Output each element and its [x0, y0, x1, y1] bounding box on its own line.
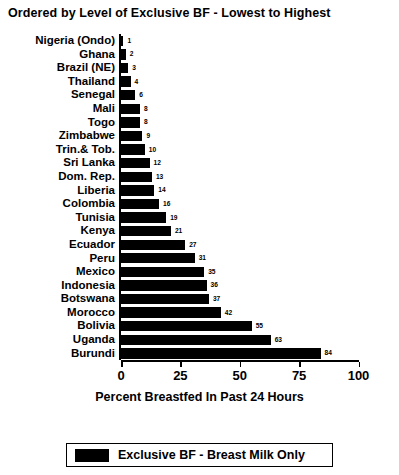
bar-value-label: 3 [132, 65, 136, 72]
bar: 36 [121, 280, 207, 290]
bar: 27 [121, 240, 185, 250]
category-label: Mexico [0, 265, 118, 279]
bar: 6 [121, 90, 135, 100]
category-label: Zimbabwe [0, 129, 118, 143]
bar-value-label: 8 [144, 105, 148, 112]
bar-fill [121, 172, 152, 182]
category-label: Nigeria (Ondo) [0, 34, 118, 48]
bar-value-label: 1 [127, 37, 131, 44]
category-label: Kenya [0, 224, 118, 238]
bar-value-label: 37 [213, 296, 220, 303]
bar: 9 [121, 131, 142, 141]
bar-row: Colombia16 [0, 197, 399, 211]
bar-rows: Nigeria (Ondo)1Ghana2Brazil (NE)3Thailan… [0, 34, 399, 360]
x-tick-label: 100 [348, 368, 370, 383]
category-label: Indonesia [0, 279, 118, 293]
bar-value-label: 13 [156, 173, 163, 180]
bar-fill [121, 76, 131, 86]
bar-value-label: 16 [163, 201, 170, 208]
bar-row: Peru31 [0, 252, 399, 266]
bar-row: Burundi84 [0, 347, 399, 361]
bar-row: Trin.& Tob.10 [0, 143, 399, 157]
bar-fill [121, 63, 128, 73]
category-label: Ecuador [0, 238, 118, 252]
category-label: Liberia [0, 184, 118, 198]
category-label: Bolivia [0, 319, 118, 333]
bar-fill [121, 212, 166, 222]
bar-row: Bolivia55 [0, 319, 399, 333]
bar: 8 [121, 104, 140, 114]
bar-fill [121, 185, 154, 195]
category-label: Brazil (NE) [0, 61, 118, 75]
bar-fill [121, 321, 252, 331]
bar-fill [121, 49, 126, 59]
bar-fill [121, 117, 140, 127]
bar-row: Togo8 [0, 116, 399, 130]
bar-value-label: 31 [199, 255, 206, 262]
bar-value-label: 19 [170, 214, 177, 221]
x-tick [359, 362, 361, 367]
bar-value-label: 9 [146, 133, 150, 140]
bar: 84 [121, 348, 321, 358]
category-label: Uganda [0, 333, 118, 347]
x-axis-title: Percent Breastfed In Past 24 Hours [0, 390, 399, 404]
bar-row: Brazil (NE)3 [0, 61, 399, 75]
bar-value-label: 84 [325, 350, 332, 357]
bar: 14 [121, 185, 154, 195]
bar: 16 [121, 199, 159, 209]
x-tick [299, 362, 301, 367]
category-label: Mali [0, 102, 118, 116]
category-label: Botswana [0, 292, 118, 306]
category-label: Peru [0, 252, 118, 266]
bar-chart: Ordered by Level of Exclusive BF - Lowes… [0, 0, 399, 475]
bar-row: Sri Lanka12 [0, 156, 399, 170]
bar-fill [121, 199, 159, 209]
bar-fill [121, 90, 135, 100]
bar: 13 [121, 172, 152, 182]
bar: 37 [121, 294, 209, 304]
bar: 55 [121, 321, 252, 331]
plot-area: Nigeria (Ondo)1Ghana2Brazil (NE)3Thailan… [0, 34, 399, 386]
bar-fill [121, 131, 142, 141]
category-label: Tunisia [0, 211, 118, 225]
bar-value-label: 27 [189, 241, 196, 248]
bar-fill [121, 104, 140, 114]
x-tick [180, 362, 182, 367]
bar-fill [121, 144, 145, 154]
bar-fill [121, 280, 207, 290]
bar: 19 [121, 212, 166, 222]
bar: 3 [121, 63, 128, 73]
bar-value-label: 35 [208, 269, 215, 276]
category-label: Senegal [0, 88, 118, 102]
bar-value-label: 63 [275, 337, 282, 344]
bar-value-label: 42 [225, 309, 232, 316]
bar: 42 [121, 307, 221, 317]
bar-row: Ecuador27 [0, 238, 399, 252]
bar: 21 [121, 226, 171, 236]
bar-value-label: 12 [154, 160, 161, 167]
bar-row: Tunisia19 [0, 211, 399, 225]
bar-fill [121, 158, 150, 168]
x-tick [240, 362, 242, 367]
bar-fill [121, 267, 204, 277]
bar-row: Nigeria (Ondo)1 [0, 34, 399, 48]
bar-fill [121, 36, 123, 46]
bar-value-label: 14 [158, 187, 165, 194]
bar-row: Kenya21 [0, 224, 399, 238]
legend-swatch-exclusive-bf [75, 449, 109, 462]
bar-value-label: 4 [135, 78, 139, 85]
category-label: Sri Lanka [0, 156, 118, 170]
bar-row: Zimbabwe9 [0, 129, 399, 143]
bar: 35 [121, 267, 204, 277]
category-label: Burundi [0, 347, 118, 361]
chart-title: Ordered by Level of Exclusive BF - Lowes… [8, 6, 393, 20]
bar-fill [121, 348, 321, 358]
bar: 1 [121, 36, 123, 46]
category-label: Dom. Rep. [0, 170, 118, 184]
bar-row: Morocco42 [0, 306, 399, 320]
category-label: Colombia [0, 197, 118, 211]
bar-row: Senegal6 [0, 88, 399, 102]
category-label: Thailand [0, 75, 118, 89]
bar: 31 [121, 253, 195, 263]
bar-row: Thailand4 [0, 75, 399, 89]
